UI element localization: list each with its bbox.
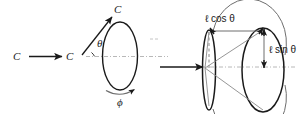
tip-vector-label: C <box>114 3 122 15</box>
origin-vector-label: C <box>66 50 74 62</box>
cone-generator-lower <box>205 68 263 110</box>
polar-angle-arc <box>92 53 95 57</box>
vector-decomposition-figure: C C C θ ϕ <box>0 0 303 114</box>
cone-sweep-lower <box>213 85 286 114</box>
cone-generator-edge-lower <box>205 68 209 106</box>
incoming-vector-label: C <box>13 50 21 62</box>
radial-component-label: ℓ sin θ <box>269 44 297 55</box>
cone-generator-upper <box>205 30 263 68</box>
polar-angle-label: θ <box>97 37 103 49</box>
figure-canvas: C C C θ ϕ <box>0 0 303 114</box>
left-panel: C C C θ ϕ <box>13 3 168 108</box>
axial-component-label: ℓ cos θ <box>205 13 235 24</box>
tilted-vector-arrow <box>82 17 112 55</box>
azimuth-angle-label: ϕ <box>117 96 123 108</box>
edge-on-ellipse <box>203 30 216 110</box>
right-panel: ℓ cos θ ℓ sin θ <box>150 0 297 114</box>
